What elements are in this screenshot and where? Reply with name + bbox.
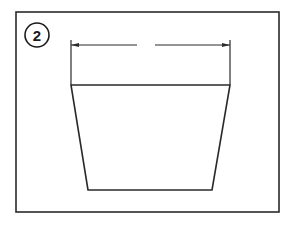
arrowhead-left-icon	[71, 43, 79, 47]
step-number: 2	[33, 27, 41, 44]
dimension-indicator	[71, 40, 230, 85]
trapezoid-shape	[71, 85, 230, 190]
frame-border	[16, 12, 279, 212]
diagram-canvas: 2	[0, 0, 294, 229]
arrowhead-right-icon	[222, 43, 230, 47]
step-badge: 2	[25, 23, 49, 47]
diagram-svg: 2	[0, 0, 294, 229]
